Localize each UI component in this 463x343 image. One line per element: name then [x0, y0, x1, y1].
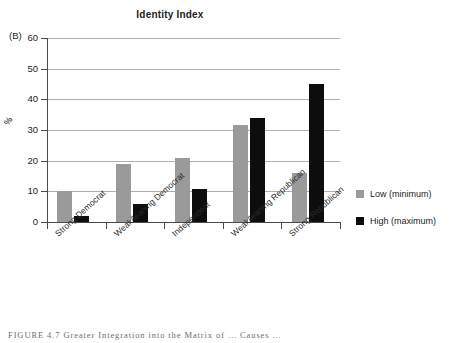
y-tick-label: 40 — [12, 93, 38, 104]
legend-swatch-high — [356, 217, 364, 225]
x-tick-mark — [47, 223, 48, 229]
y-tick-label: 10 — [12, 185, 38, 196]
x-tick-mark — [340, 223, 341, 229]
plot-area — [47, 38, 340, 222]
y-tick-label: 20 — [12, 155, 38, 166]
chart-legend: Low (minimum)High (maximum) — [356, 189, 436, 243]
legend-swatch-low — [356, 190, 364, 198]
x-tick-mark — [106, 223, 107, 229]
legend-item: Low (minimum) — [356, 189, 436, 199]
figure-caption: FIGURE 4.7 Greater Integration into the … — [8, 330, 458, 340]
legend-label: High (maximum) — [370, 216, 436, 226]
chart-title: Identity Index — [0, 9, 340, 20]
x-tick-mark — [164, 223, 165, 229]
x-tick-mark — [223, 223, 224, 229]
bar-low — [116, 164, 131, 222]
y-tick-label: 60 — [12, 32, 38, 43]
x-tick-mark — [281, 223, 282, 229]
figure-container: Identity Index (B) % 0102030405060 Stron… — [0, 0, 463, 343]
legend-label: Low (minimum) — [370, 189, 432, 199]
legend-item: High (maximum) — [356, 216, 436, 226]
y-tick-label: 50 — [12, 63, 38, 74]
y-tick-label: 0 — [12, 216, 38, 227]
bar-low — [233, 125, 248, 222]
bar-low — [175, 158, 190, 222]
y-tick-label: 30 — [12, 124, 38, 135]
